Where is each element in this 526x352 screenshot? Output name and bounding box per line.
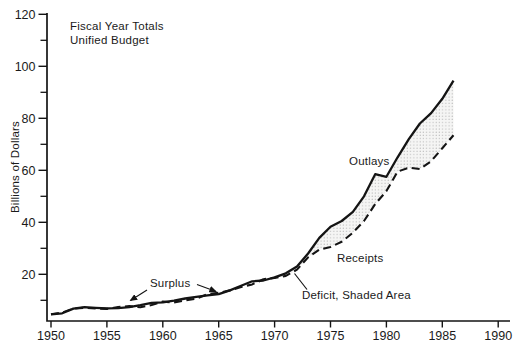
surplus-arrow-right bbox=[197, 285, 216, 292]
deficit-annotation: Deficit, Shaded Area bbox=[302, 289, 411, 301]
y-axis-title: Billions of Dollars bbox=[9, 106, 21, 228]
x-tick-label: 1960 bbox=[149, 329, 177, 343]
chart-title-line1: Fiscal Year Totals bbox=[70, 19, 164, 33]
deficit-shaded-area bbox=[275, 81, 454, 278]
x-tick-label: 1955 bbox=[93, 329, 121, 343]
y-tick-label: 80 bbox=[22, 112, 36, 126]
outlays-series-label: Outlays bbox=[349, 155, 389, 167]
deficit-leader-line bbox=[295, 274, 308, 290]
x-tick-label: 1970 bbox=[261, 329, 289, 343]
chart-svg: 2040608010012019501955196019651970197519… bbox=[0, 0, 526, 352]
x-tick-label: 1985 bbox=[428, 329, 456, 343]
y-tick-label: 120 bbox=[15, 8, 36, 22]
chart-title-line2: Unified Budget bbox=[70, 33, 164, 47]
chart-title: Fiscal Year Totals Unified Budget bbox=[70, 19, 164, 47]
y-tick-label: 20 bbox=[22, 268, 36, 282]
receipts-series-label: Receipts bbox=[337, 252, 383, 264]
receipts-line bbox=[51, 135, 454, 314]
surplus-arrow-left bbox=[131, 290, 148, 301]
y-tick-label: 40 bbox=[22, 216, 36, 230]
y-tick-label: 60 bbox=[22, 164, 36, 178]
x-tick-label: 1980 bbox=[372, 329, 400, 343]
x-tick-label: 1950 bbox=[37, 329, 65, 343]
y-tick-label: 100 bbox=[15, 60, 36, 74]
x-tick-label: 1965 bbox=[205, 329, 233, 343]
surplus-annotation: Surplus bbox=[150, 277, 190, 289]
x-tick-label: 1975 bbox=[317, 329, 345, 343]
outlays-line bbox=[51, 81, 454, 315]
chart-figure: 2040608010012019501955196019651970197519… bbox=[0, 0, 526, 352]
x-tick-label: 1990 bbox=[484, 329, 512, 343]
